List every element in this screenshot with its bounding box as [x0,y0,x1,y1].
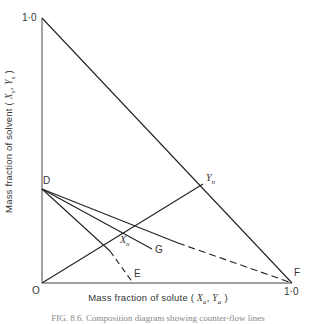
line-d-g [42,189,152,249]
composition-diagram [0,0,316,324]
point-d-label: D [43,175,50,186]
y-axis-label: Mass fraction of solvent ( Xs, Ys ) [3,93,17,213]
x-axis-label: Mass fraction of solute ( Xa, Ya ) [0,292,316,306]
y-max-tick: 1·0 [22,12,36,23]
point-yn-label: Yn [206,172,215,186]
point-xn-label: Xn [120,234,130,248]
figure-caption: FIG. 8.6. Composition diagram showing co… [0,313,316,323]
point-f-label: F [294,267,300,278]
xn-sub: n [126,240,130,248]
line-d-f-dashed [178,243,292,283]
yn-sub: n [212,178,216,186]
line-d-e-dashed [110,251,133,283]
line-d-f-solid [42,189,178,243]
point-e-label: E [134,268,141,279]
hypotenuse-line [42,18,292,283]
point-g-label: G [155,244,163,255]
